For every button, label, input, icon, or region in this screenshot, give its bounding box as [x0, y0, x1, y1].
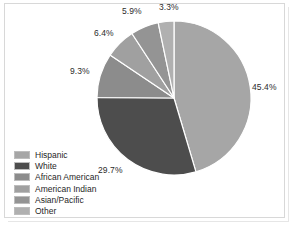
pie-percent-label: 6.4% [94, 28, 114, 38]
legend-swatch [14, 151, 30, 159]
pie-percent-label: 45.4% [252, 82, 277, 92]
legend-item: African American [14, 172, 110, 183]
pie-percent-label: 3.3% [159, 2, 179, 12]
pie-percent-label: 5.9% [122, 6, 142, 16]
pie-percent-label: 9.3% [70, 66, 90, 76]
legend-item: Other [14, 206, 110, 217]
legend-item-label: Other [35, 206, 56, 216]
legend-item: Asian/Pacific [14, 195, 110, 206]
legend-swatch [14, 185, 30, 193]
chart-legend: HispanicWhiteAfrican AmericanAmerican In… [14, 149, 110, 217]
legend-item-label: African American [35, 172, 99, 182]
legend-swatch [14, 173, 30, 181]
chart-page: 45.4%29.7%9.3%6.4%5.9%3.3% HispanicWhite… [0, 0, 292, 228]
legend-swatch [14, 207, 30, 215]
legend-swatch [14, 196, 30, 204]
legend-item-label: Asian/Pacific [35, 195, 84, 205]
legend-item: Hispanic [14, 149, 110, 160]
legend-item: American Indian [14, 183, 110, 194]
legend-item-label: White [35, 161, 57, 171]
legend-item: White [14, 160, 110, 171]
legend-item-label: Hispanic [35, 150, 68, 160]
legend-item-label: American Indian [35, 184, 96, 194]
legend-swatch [14, 162, 30, 170]
pie-slice-group [97, 21, 251, 175]
